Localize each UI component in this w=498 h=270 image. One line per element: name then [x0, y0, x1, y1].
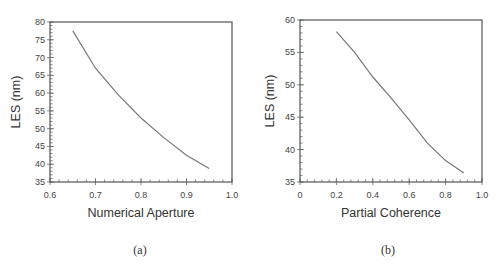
y-tick-label: 40: [35, 159, 45, 169]
x-tick-label: 1.0: [226, 190, 239, 200]
x-tick-label: 0.9: [180, 190, 193, 200]
y-tick-label: 40: [285, 145, 295, 155]
x-tick-label: 0.6: [403, 190, 416, 200]
y-tick-label: 55: [285, 47, 295, 57]
y-tick-label: 80: [35, 17, 45, 27]
x-tick-label: 0.2: [330, 190, 343, 200]
y-tick-label: 60: [285, 15, 295, 25]
x-tick-label: 0.7: [89, 190, 102, 200]
x-tick-label: 0.4: [367, 190, 380, 200]
chart-panel-b: 35404550556000.20.40.60.81.0Partial Cohe…: [263, 15, 488, 257]
y-tick-label: 70: [35, 53, 45, 63]
y-tick-label: 35: [35, 177, 45, 187]
series-line: [73, 31, 209, 169]
y-tick-label: 50: [285, 80, 295, 90]
y-tick-label: 50: [35, 124, 45, 134]
x-axis-title: Partial Coherence: [341, 206, 441, 220]
x-axis-title: Numerical Aperture: [88, 206, 195, 220]
x-tick-label: 0.8: [439, 190, 452, 200]
y-axis-title: LES (nm): [263, 75, 277, 128]
plot-frame: [300, 20, 482, 182]
x-tick-label: 0.8: [135, 190, 148, 200]
figure: 354045505560657075800.60.70.80.91.0Numer…: [0, 0, 498, 270]
panel-caption: (b): [381, 243, 395, 257]
y-axis-title: LES (nm): [9, 76, 23, 129]
chart-panel-a: 354045505560657075800.60.70.80.91.0Numer…: [9, 17, 238, 257]
panel-caption: (a): [133, 243, 146, 257]
y-tick-label: 45: [285, 112, 295, 122]
y-tick-label: 60: [35, 88, 45, 98]
y-tick-label: 75: [35, 35, 45, 45]
x-tick-label: 1.0: [476, 190, 489, 200]
y-tick-label: 45: [35, 141, 45, 151]
x-tick-label: 0: [297, 190, 302, 200]
y-tick-label: 55: [35, 106, 45, 116]
y-tick-label: 65: [35, 70, 45, 80]
y-tick-label: 35: [285, 177, 295, 187]
series-line: [336, 32, 463, 173]
x-tick-label: 0.6: [44, 190, 57, 200]
plot-frame: [50, 22, 232, 182]
